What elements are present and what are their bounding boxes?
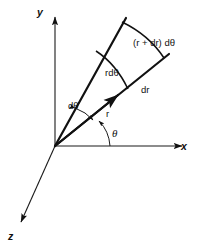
r-label: r [106,108,109,119]
z-axis-label: z [7,230,14,242]
x-axis-label: x [180,140,188,152]
theta-label: θ [112,127,118,139]
z-axis-line [21,146,55,222]
polar-element-diagram: x y z (r + dr) dθ rdθ dr r dθ θ [0,0,208,252]
y-axis-label: y [36,6,44,18]
dtheta-label: dθ [68,100,79,111]
dr-label: dr [141,84,149,95]
diagram-canvas: x y z (r + dr) dθ rdθ dr r dθ θ [0,0,208,252]
theta-angle-arc [99,121,110,146]
outer-arc-label: (r + dr) dθ [133,37,175,48]
inner-arc-label: rdθ [105,67,119,78]
